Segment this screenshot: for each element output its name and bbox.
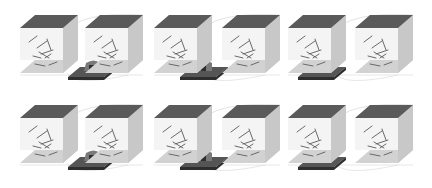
connector-arc	[335, 163, 398, 171]
cube-front-face	[288, 28, 331, 60]
cube	[20, 105, 78, 163]
cube	[288, 15, 346, 73]
cube-front-face	[154, 118, 197, 150]
cube-front-face	[355, 118, 398, 150]
cube	[355, 15, 413, 73]
row-2	[20, 104, 413, 170]
cube-front-face	[85, 118, 128, 150]
plate-edge	[298, 167, 334, 170]
cube-front-face	[222, 28, 265, 60]
cube	[154, 105, 212, 163]
cube	[154, 15, 212, 73]
plate-edge	[180, 167, 216, 170]
cube-front-face	[355, 28, 398, 60]
plate-edge	[298, 77, 334, 80]
connector-arc	[335, 73, 398, 81]
cube	[20, 15, 78, 73]
cube-front-face	[20, 28, 63, 60]
cube-front-face	[154, 28, 197, 60]
cube	[222, 105, 280, 163]
plate-edge	[180, 77, 216, 80]
cube	[355, 105, 413, 163]
cube	[222, 15, 280, 73]
plate-edge	[68, 167, 104, 170]
cube-front-face	[20, 118, 63, 150]
cube-front-face	[85, 28, 128, 60]
figure-canvas	[0, 0, 432, 188]
cube-pairs-diagram	[0, 0, 432, 188]
cube-front-face	[222, 118, 265, 150]
cube-front-face	[288, 118, 331, 150]
plate-edge	[68, 77, 104, 80]
row-1	[20, 14, 413, 80]
cube	[288, 105, 346, 163]
